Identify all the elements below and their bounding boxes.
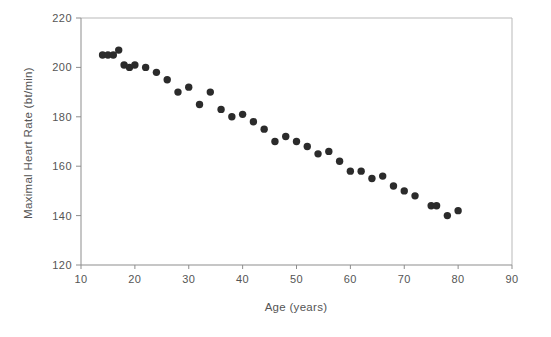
chart-canvas: 120140160180200220 102030405060708090 Ag…	[0, 0, 551, 337]
data-point	[228, 113, 235, 120]
y-tick-label: 220	[52, 12, 72, 24]
data-point	[196, 101, 203, 108]
y-tick-label: 180	[52, 111, 72, 123]
y-tick-label: 140	[52, 210, 72, 222]
data-point	[336, 158, 343, 165]
data-point	[368, 175, 375, 182]
data-point	[444, 212, 451, 219]
x-tick-label: 70	[398, 273, 411, 285]
y-axis-title: Maximal Heart Rate (bt/min)	[22, 67, 34, 219]
data-point	[379, 172, 386, 179]
data-point	[239, 111, 246, 118]
data-point	[314, 150, 321, 157]
data-point	[325, 148, 332, 155]
data-point	[185, 83, 192, 90]
data-point	[250, 118, 257, 125]
x-tick-label: 20	[128, 273, 141, 285]
y-tick-label: 200	[52, 61, 72, 73]
figure-background	[0, 0, 551, 337]
data-point	[217, 106, 224, 113]
data-point	[142, 64, 149, 71]
x-tick-label: 30	[182, 273, 195, 285]
data-point	[454, 207, 461, 214]
x-tick-label: 80	[452, 273, 465, 285]
data-point	[115, 46, 122, 53]
data-point	[411, 192, 418, 199]
data-point	[357, 167, 364, 174]
data-point	[433, 202, 440, 209]
data-point	[282, 133, 289, 140]
data-point	[271, 138, 278, 145]
data-point	[153, 69, 160, 76]
data-point	[390, 182, 397, 189]
data-point	[131, 61, 138, 68]
data-point	[401, 187, 408, 194]
scatter-plot-figure: 120140160180200220 102030405060708090 Ag…	[0, 0, 551, 337]
x-axis-title: Age (years)	[265, 301, 328, 313]
data-point	[304, 143, 311, 150]
x-tick-label: 40	[236, 273, 249, 285]
data-point	[260, 125, 267, 132]
data-point	[293, 138, 300, 145]
data-point	[174, 88, 181, 95]
data-point	[207, 88, 214, 95]
x-tick-label: 50	[290, 273, 303, 285]
x-tick-label: 60	[344, 273, 357, 285]
data-point	[164, 76, 171, 83]
x-tick-label: 10	[74, 273, 87, 285]
x-tick-label: 90	[505, 273, 518, 285]
data-point	[347, 167, 354, 174]
y-tick-label: 160	[52, 160, 72, 172]
y-tick-label: 120	[52, 259, 72, 271]
